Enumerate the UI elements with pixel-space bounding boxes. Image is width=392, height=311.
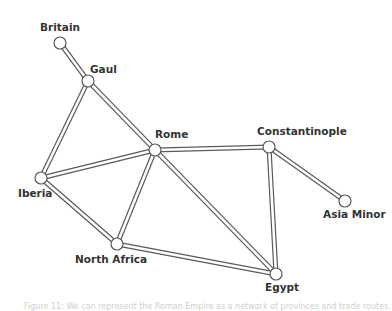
node-label-britain: Britain bbox=[40, 21, 80, 33]
node-label-asia_minor: Asia Minor bbox=[323, 208, 386, 220]
node-gaul bbox=[82, 75, 94, 87]
node-label-egypt: Egypt bbox=[265, 281, 299, 293]
node-iberia bbox=[35, 172, 47, 184]
figure-caption: Figure 11: We can represent the Roman Em… bbox=[24, 302, 384, 311]
edge-britain-gaul bbox=[60, 43, 88, 81]
node-label-iberia: Iberia bbox=[18, 187, 52, 199]
node-label-rome: Rome bbox=[155, 128, 188, 140]
edge-rome-north_africa bbox=[117, 150, 155, 244]
node-label-constantinople: Constantinople bbox=[257, 125, 347, 137]
node-asia_minor bbox=[339, 195, 351, 207]
edge-gaul-iberia bbox=[41, 81, 88, 178]
node-north_africa bbox=[111, 238, 123, 250]
edge-constantinople-asia_minor bbox=[269, 147, 345, 201]
edge-rome-iberia bbox=[41, 150, 155, 178]
node-rome bbox=[149, 144, 161, 156]
node-label-gaul: Gaul bbox=[90, 63, 117, 75]
node-britain bbox=[54, 37, 66, 49]
node-egypt bbox=[270, 268, 282, 280]
edge-gaul-rome bbox=[88, 81, 155, 150]
node-label-north_africa: North Africa bbox=[75, 253, 147, 265]
node-constantinople bbox=[263, 141, 275, 153]
